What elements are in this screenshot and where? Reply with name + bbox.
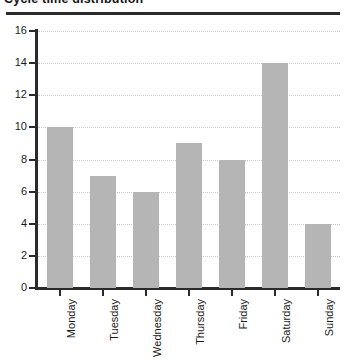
y-axis-tick-label: 12 [1, 89, 27, 100]
y-axis-tick-label: 16 [1, 25, 27, 36]
x-axis-tick-label: Sunday [323, 299, 335, 336]
y-axis-tick-label: 8 [1, 154, 27, 165]
y-axis-tick-mark [29, 126, 36, 128]
bar [219, 160, 245, 289]
y-axis-tick-labels: 0246810121416 [0, 0, 27, 362]
y-axis-tick-mark [29, 30, 36, 32]
x-axis-tick-mark [59, 290, 61, 296]
y-axis-tick-mark [29, 159, 36, 161]
x-axis-tick-label: Monday [65, 299, 77, 338]
x-axis-tick-label: Saturday [280, 299, 292, 343]
y-axis-tick-mark [29, 223, 36, 225]
bar [90, 176, 116, 288]
bar [47, 127, 73, 288]
y-axis-tick-label: 10 [1, 121, 27, 132]
x-axis-tick-mark [145, 290, 147, 296]
x-axis-tick-mark [231, 290, 233, 296]
y-axis-tick-label: 0 [1, 282, 27, 293]
y-axis-tick-label: 2 [1, 250, 27, 261]
y-axis-tick-mark [29, 255, 36, 257]
bar [262, 63, 288, 288]
y-axis-tick-label: 6 [1, 186, 27, 197]
x-axis-tick-label: Wednesday [151, 299, 163, 357]
y-axis-tick-mark [29, 62, 36, 64]
x-axis-tick-label: Tuesday [108, 299, 120, 341]
y-axis-tick-label: 4 [1, 218, 27, 229]
header-rule [6, 12, 340, 15]
y-axis-tick-mark [29, 191, 36, 193]
chart-title-clip: Cycle time distribution [0, 0, 346, 8]
x-axis-tick-mark [317, 290, 319, 296]
bar-series [38, 31, 340, 288]
y-axis-tick-mark [29, 287, 36, 289]
bar [176, 143, 202, 288]
x-axis-tick-mark [274, 290, 276, 296]
x-axis-tick-mark [102, 290, 104, 296]
y-axis-tick-label: 14 [1, 57, 27, 68]
x-axis-tick-label: Friday [237, 299, 249, 330]
x-axis-tick-label: Thursday [194, 299, 206, 345]
bar-chart-figure: Cycle time distribution 0246810121416 Mo… [0, 0, 346, 362]
y-axis-tick-mark [29, 94, 36, 96]
x-axis-tick-mark [188, 290, 190, 296]
bar [305, 224, 331, 288]
bar [133, 192, 159, 288]
